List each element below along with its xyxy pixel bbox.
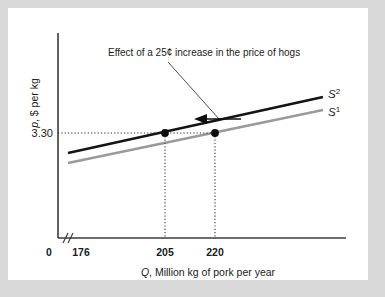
x-axis-title-symbol: Q <box>141 266 149 278</box>
point-on-s1 <box>211 129 219 137</box>
curve-s2 <box>68 97 323 153</box>
shift-arrow-head-icon <box>194 114 207 124</box>
curve-s1 <box>68 110 323 163</box>
supply-shift-chart: 0 176 205 220 3.30 p, $ per kg Q, Millio… <box>8 8 368 280</box>
curve-label-s1-superscript: 1 <box>336 105 341 114</box>
point-on-s2 <box>161 129 169 137</box>
x-tick-176: 176 <box>72 246 90 258</box>
x-tick-205: 205 <box>156 246 174 258</box>
y-axis-title: p, $ per kg <box>28 78 40 129</box>
x-axis-title: Q, Million kg of pork per year <box>141 266 276 278</box>
annotation-leader-line <box>168 62 219 119</box>
x-tick-220: 220 <box>206 246 224 258</box>
y-tick-3-30: 3.30 <box>32 127 53 139</box>
curve-label-s2: S2 <box>328 87 341 100</box>
figure-card: 0 176 205 220 3.30 p, $ per kg Q, Millio… <box>8 8 368 280</box>
shift-annotation-text: Effect of a 25¢ increase in the price of… <box>108 47 300 58</box>
x-axis-title-rest: , Million kg of pork per year <box>149 266 276 278</box>
curve-label-s2-superscript: 2 <box>336 87 341 96</box>
y-axis-title-rest: , $ per kg <box>28 78 40 122</box>
svg-text:p, $ per kg: p, $ per kg <box>28 78 40 129</box>
curve-label-s1: S1 <box>328 105 341 118</box>
x-tick-0: 0 <box>46 246 52 258</box>
